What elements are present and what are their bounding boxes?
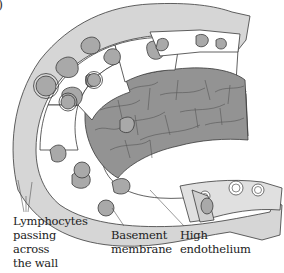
label-line: High — [180, 228, 251, 242]
hev-diagram: ) — [0, 0, 284, 273]
label-lymphocytes: Lymphocytes passing across the wall — [13, 214, 88, 270]
label-basement-membrane: Basement membrane — [111, 228, 172, 256]
label-line: endothelium — [180, 242, 251, 256]
label-line: the wall — [13, 256, 88, 270]
label-line: Basement — [111, 228, 172, 242]
label-line: across — [13, 242, 88, 256]
label-line: Lymphocytes — [13, 214, 88, 228]
label-high-endothelium: High endothelium — [180, 228, 251, 256]
label-line: membrane — [111, 242, 172, 256]
label-line: passing — [13, 228, 88, 242]
